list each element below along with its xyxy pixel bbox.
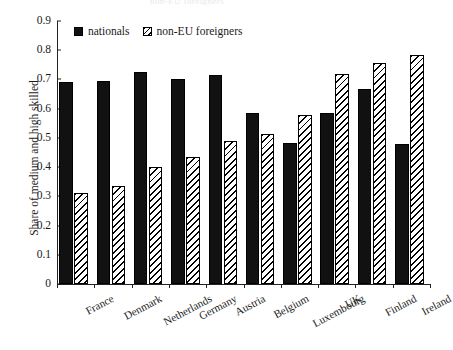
bar-non-eu-foreigners — [261, 134, 275, 284]
bar-group — [94, 21, 131, 284]
legend-label-nationals: nationals — [88, 25, 130, 37]
chart-legend: nationals non-EU foreigners — [74, 25, 242, 37]
bar-non-eu-foreigners — [224, 141, 238, 284]
y-axis-tick-label: 0.2 — [5, 220, 57, 232]
bar-nationals — [358, 89, 372, 284]
x-axis-tick-mark — [57, 284, 58, 288]
plot-area: 00.10.20.30.40.50.60.70.80.9FranceDenmar… — [57, 21, 430, 284]
x-axis-category-label: Ireland — [419, 292, 452, 317]
bar-nationals — [97, 81, 111, 284]
y-axis-tick-label: 0.8 — [5, 44, 57, 56]
x-axis-tick-mark — [244, 284, 245, 288]
bar-non-eu-foreigners — [373, 63, 387, 284]
bar-non-eu-foreigners — [186, 157, 200, 284]
x-axis-category-label: Denmark — [122, 292, 164, 322]
bar-group — [132, 21, 169, 284]
legend-item-nationals: nationals — [74, 25, 130, 37]
bar-nationals — [134, 72, 148, 284]
clipped-title-text: non-EU foreigners — [150, 0, 310, 5]
y-axis-tick-label: 0.6 — [5, 103, 57, 115]
y-axis-tick-label: 0.1 — [5, 249, 57, 261]
bar-nationals — [171, 79, 185, 284]
legend-item-non-eu-foreigners: non-EU foreigners — [143, 25, 243, 37]
bar-nationals — [283, 143, 297, 284]
bar-group — [57, 21, 94, 284]
x-axis-tick-mark — [206, 284, 207, 288]
legend-swatch-hatch-icon — [143, 27, 152, 36]
legend-swatch-solid-icon — [74, 27, 83, 36]
x-axis-tick-mark — [393, 284, 394, 288]
y-axis-tick-label: 0 — [5, 278, 57, 290]
bar-group — [169, 21, 206, 284]
bar-group — [318, 21, 355, 284]
bar-group — [244, 21, 281, 284]
bar-group — [206, 21, 243, 284]
bar-non-eu-foreigners — [298, 115, 312, 284]
x-axis-category-label: Austria — [233, 292, 267, 318]
x-axis-tick-mark — [132, 284, 133, 288]
x-axis-tick-mark — [355, 284, 356, 288]
y-axis-tick-label: 0.7 — [5, 74, 57, 86]
x-axis-category-label: France — [84, 292, 116, 317]
bar-non-eu-foreigners — [74, 193, 88, 284]
bar-group — [281, 21, 318, 284]
legend-label-non-eu-foreigners: non-EU foreigners — [157, 25, 243, 37]
bar-non-eu-foreigners — [335, 74, 349, 284]
bar-non-eu-foreigners — [410, 55, 424, 284]
y-axis-tick-label: 0.9 — [5, 15, 57, 27]
y-axis-tick-label: 0.4 — [5, 161, 57, 173]
x-axis-tick-mark — [318, 284, 319, 288]
bar-non-eu-foreigners — [112, 186, 126, 284]
bar-nationals — [395, 144, 409, 284]
x-axis-tick-mark — [430, 284, 431, 288]
x-axis-tick-mark — [94, 284, 95, 288]
x-axis-category-label: Finland — [382, 292, 417, 318]
y-axis-tick-label: 0.3 — [5, 191, 57, 203]
x-axis-tick-mark — [281, 284, 282, 288]
bar-group — [355, 21, 392, 284]
x-axis-category-label: Belgium — [271, 292, 310, 320]
y-axis-tick-label: 0.5 — [5, 132, 57, 144]
bar-non-eu-foreigners — [149, 167, 163, 284]
x-axis-tick-mark — [169, 284, 170, 288]
bar-nationals — [320, 113, 334, 284]
bar-nationals — [209, 75, 223, 284]
bar-nationals — [59, 82, 73, 284]
bar-group — [393, 21, 430, 284]
bar-nationals — [246, 113, 260, 284]
